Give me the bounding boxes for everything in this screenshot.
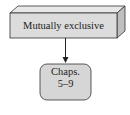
arrow-connector (63, 38, 69, 63)
node-chaps-label: Chaps. 5–9 (40, 66, 91, 90)
node-chaps-line1: Chaps. (40, 66, 91, 78)
diagram-canvas: Mutually exclusive Chaps. 5–9 (0, 0, 130, 115)
header-box-label: Mutually exclusive (10, 13, 117, 38)
arrow-head-icon (63, 57, 69, 63)
node-chaps-line2: 5–9 (40, 78, 91, 90)
header-box-top-face (10, 6, 125, 13)
